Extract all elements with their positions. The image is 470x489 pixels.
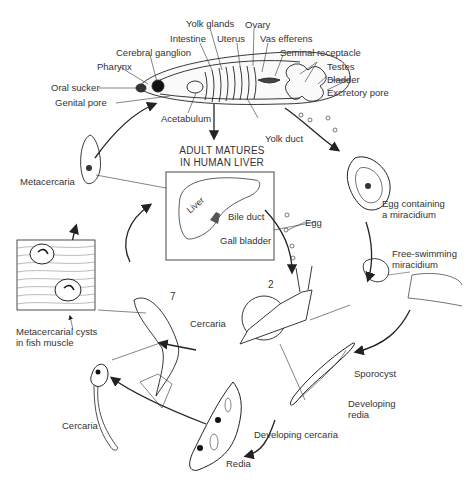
label-egg: Egg [305, 217, 322, 228]
label-metacercaria: Metacercaria [20, 176, 75, 187]
adult-matures-line2: IN HUMAN LIVER [172, 157, 272, 169]
metacercaria-illustration [81, 135, 101, 184]
label-acetabulum: Acetabulum [161, 113, 211, 124]
adult-matures-line1: ADULT MATURES [172, 145, 272, 157]
metacercarial-line2: in fish muscle [16, 337, 97, 348]
adult-fluke-illustration [136, 52, 350, 105]
label-ovary: Ovary [245, 19, 270, 30]
host-number-snail: 2 [268, 279, 274, 290]
label-intestine: Intestine [170, 33, 206, 44]
label-developing-redia: Developing redia [348, 398, 396, 420]
miracidium-illustration [363, 259, 389, 282]
label-vas-efferens: Vas efferens [260, 33, 312, 44]
label-developing-cercaria: Developing cercaria [254, 429, 338, 440]
label-genital-pore: Genital pore [55, 97, 107, 108]
adult-matures-title: ADULT MATURES IN HUMAN LIVER [172, 145, 272, 169]
label-cercaria-bottom: Cercaria [62, 420, 98, 431]
host-number-fish: 7 [170, 291, 176, 302]
free-swimming-line1: Free-swimming [392, 248, 457, 259]
metacercarial-line1: Metacercarial cysts [16, 326, 97, 337]
label-sporocyst: Sporocyst [354, 368, 396, 379]
label-oral-sucker: Oral sucker [51, 82, 100, 93]
snail-illustration [240, 266, 312, 344]
label-cercaria-snail: Cercaria [190, 318, 226, 329]
label-uterus: Uterus [217, 33, 245, 44]
label-egg-containing-miracidium: Egg containing a miracidium [382, 198, 445, 220]
label-gall-bladder: Gall bladder [220, 235, 271, 246]
label-testes: Testes [327, 61, 354, 72]
egg-miracidium-line1: Egg containing [382, 198, 445, 209]
free-swimming-line2: miracidium [392, 259, 457, 270]
label-metacercarial-cysts: Metacercarial cysts in fish muscle [16, 326, 97, 348]
developing-redia-line1: Developing [348, 398, 396, 409]
label-redia: Redia [226, 458, 251, 469]
label-pharynx: Pharynx [97, 61, 132, 72]
label-yolk-duct: Yolk duct [265, 133, 303, 144]
label-seminal-receptacle: Seminal receptacle [280, 47, 361, 58]
label-bile-duct: Bile duct [228, 211, 264, 222]
label-free-swimming-miracidium: Free-swimming miracidium [392, 248, 457, 270]
label-excretory-pore: Excretory pore [327, 87, 389, 98]
label-cerebral-ganglion: Cerebral ganglion [116, 47, 191, 58]
label-bladder: Bladder [327, 74, 360, 85]
developing-redia-line2: redia [348, 409, 396, 420]
fish-muscle-cysts-illustration [17, 240, 95, 310]
cercaria-illustration [91, 364, 108, 386]
egg-miracidium-line2: a miracidium [382, 209, 445, 220]
label-yolk-glands: Yolk glands [186, 18, 234, 29]
